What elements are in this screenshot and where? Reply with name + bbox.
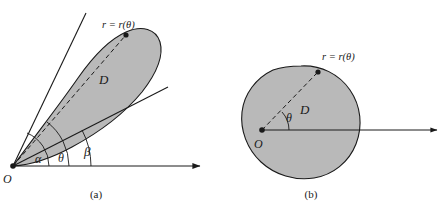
radius-label-a: r = r(θ) <box>102 19 135 31</box>
origin-label-b: O <box>254 137 263 151</box>
region-label-b: D <box>299 102 310 117</box>
caption-b: (b) <box>305 188 318 201</box>
region-d-shape-b <box>242 66 360 179</box>
origin-label-a: O <box>3 172 12 186</box>
theta-label-a: θ <box>58 151 64 165</box>
alpha-label-a: α <box>35 152 42 166</box>
panel-b: θ D r = r(θ) O (b) <box>242 51 437 201</box>
origin-point-a <box>10 163 16 169</box>
caption-a: (a) <box>90 188 103 201</box>
theta-label-b: θ <box>286 111 292 125</box>
polar-region-figure: α θ β D r = r(θ) O (a) θ D <box>0 0 446 205</box>
region-label-a: D <box>98 72 109 87</box>
boundary-point-b <box>315 69 320 74</box>
boundary-point-a <box>123 32 128 37</box>
radius-label-b: r = r(θ) <box>322 51 355 63</box>
panel-a: α θ β D r = r(θ) O (a) <box>3 13 200 201</box>
origin-point-b <box>259 127 265 133</box>
beta-label-a: β <box>83 144 91 159</box>
figure-canvas: α θ β D r = r(θ) O (a) θ D <box>0 0 446 205</box>
